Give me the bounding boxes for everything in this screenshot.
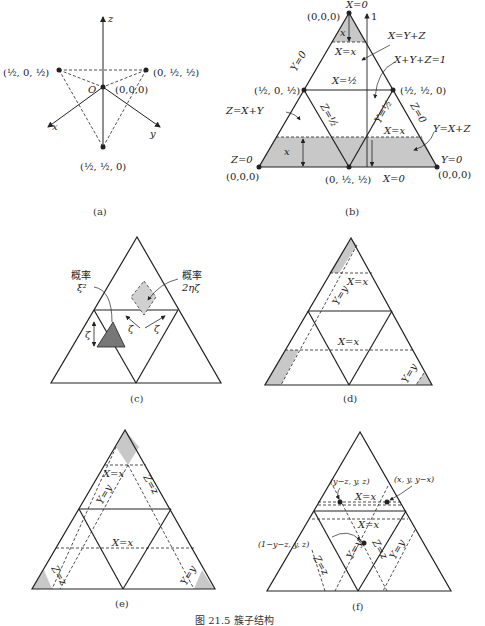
point-2	[385, 500, 390, 505]
y0-left: Y=0	[288, 48, 309, 73]
eq-y-xz: Y=X+Z	[433, 123, 471, 134]
z-axis-label: z	[107, 13, 114, 24]
inner-right	[123, 509, 171, 589]
shade-right	[416, 373, 432, 385]
dashed-lines	[281, 245, 424, 385]
panel-b: X=0 (0,0,0) 1 x X=Y+Z X=x X+Y+Z=1 Y=0 X=…	[225, 0, 471, 217]
panel-d-label: (d)	[343, 393, 357, 404]
dark-triangle	[97, 322, 125, 347]
coord-br: (0,0,0)	[438, 169, 471, 180]
y-axis-label: y	[149, 128, 156, 139]
coord-bl: (0,0,0)	[226, 171, 259, 182]
zeta-right: ζ	[154, 323, 160, 334]
panel-c-label: (c)	[130, 393, 144, 404]
y-eq-y-right: Y=y	[178, 563, 198, 587]
pointer-2	[390, 486, 412, 500]
pointer-3	[286, 112, 300, 120]
z-eq-z-bottom: Z=z	[49, 563, 70, 588]
x0-bottom: X=0	[382, 173, 405, 184]
inner-left	[308, 311, 349, 385]
mid-left-point	[302, 88, 307, 93]
panel-d: X=x Y=y X=x Y=y (d)	[264, 238, 432, 404]
x-eq-x-bottom: X=x	[383, 125, 405, 136]
panel-e: X=x Y=y Z=z X=x Z=z Y=y (e)	[32, 430, 215, 609]
z0-left: Z=0	[230, 154, 253, 165]
base-left-point	[257, 165, 262, 170]
panel-f: (y−z, y, z) (x, y, y−x) X=x X=x (1−y−z, …	[258, 432, 451, 612]
y-eq-y-right: Y=y	[399, 361, 419, 385]
figure-caption: 图 21.5 簇子结构	[195, 614, 274, 626]
pointer-1	[362, 45, 390, 60]
pt-left: (½, 0, ½)	[254, 85, 300, 96]
x-half: X=½	[331, 75, 357, 86]
x-small: x	[284, 146, 290, 157]
prob-right-label: 概率	[182, 269, 202, 281]
origin-point	[101, 85, 106, 90]
inner-left	[79, 509, 123, 589]
zeta-mid: ζ	[128, 323, 134, 334]
x-small-top: x	[340, 27, 346, 38]
label-x0-top: X=0	[345, 0, 368, 10]
z-eq-z-top: Z=z	[141, 472, 162, 497]
height-one: 1	[371, 11, 377, 22]
point-left	[57, 68, 62, 73]
panel-c: 概率 ξ² 概率 2ηζ ζ ζ ζ (c)	[51, 237, 221, 404]
pt1-label: (y−z, y, z)	[330, 477, 370, 486]
prob-right-value: 2ηζ	[181, 282, 200, 293]
x-eq-x-top: X=x	[334, 46, 356, 57]
x-eq-x-1: X=x	[354, 491, 376, 502]
apex-coord: (0,0,0)	[307, 11, 340, 22]
point-right	[144, 68, 149, 73]
point-left-label: (½, 0, ½)	[3, 67, 49, 78]
x-eq-x-top: X=x	[346, 276, 368, 287]
y0-right: Y=0	[441, 154, 463, 165]
pt3-label: (1−y−z, y, z)	[258, 540, 309, 549]
origin-coord: (0,0,0)	[115, 84, 148, 95]
z-half: Z=½	[318, 101, 341, 129]
pt-bottom: (0, ½, ½)	[325, 174, 371, 185]
panel-a-label: (a)	[93, 206, 107, 217]
panel-a: z x y O (0,0,0) (½, 0, ½) (0, ½, ½) (½, …	[3, 13, 199, 217]
x-eq-x-top: X=x	[102, 468, 124, 479]
point-1	[338, 500, 343, 505]
panel-f-label: (f)	[352, 601, 364, 612]
zeta-left: ζ	[85, 329, 91, 340]
eq-sum: X+Y+Z=1	[393, 54, 446, 65]
shade-right	[194, 570, 214, 589]
figure-canvas: z x y O (0,0,0) (½, 0, ½) (0, ½, ½) (½, …	[0, 0, 485, 626]
panel-b-label: (b)	[345, 206, 359, 217]
x-eq-x-mid: X=x	[111, 537, 133, 548]
pt2-label: (x, y, y−x)	[394, 475, 434, 484]
point-right-label: (0, ½, ½)	[153, 67, 199, 78]
z-eq-z-1: Z=z	[370, 537, 391, 562]
shade-left	[264, 350, 299, 385]
x-axis-label: x	[52, 121, 58, 132]
x-eq-x-2: X=x	[357, 519, 379, 530]
pt-right: (½, ½, 0)	[400, 85, 446, 96]
y-half: Y=½	[372, 98, 394, 125]
origin-label: O	[88, 84, 96, 95]
inner-right	[349, 311, 392, 385]
prob-left-label: 概率	[71, 269, 91, 281]
eq-z-xy: Z=X+Y	[225, 105, 265, 116]
point-bottom	[101, 145, 106, 150]
eq-x-y-z: X=Y+Z	[387, 30, 426, 41]
y-eq-y: Y=y	[94, 482, 114, 506]
prob-left-value: ξ²	[77, 282, 87, 293]
panel-e-label: (e)	[115, 598, 129, 609]
x-eq-x-mid: X=x	[337, 336, 359, 347]
mid-right-point	[391, 88, 396, 93]
apex-point	[347, 11, 352, 16]
point-bottom-label: (½, ½, 0)	[80, 161, 126, 172]
y-eq-y-2: Y=y	[387, 537, 407, 561]
base-mid-point	[347, 165, 352, 170]
